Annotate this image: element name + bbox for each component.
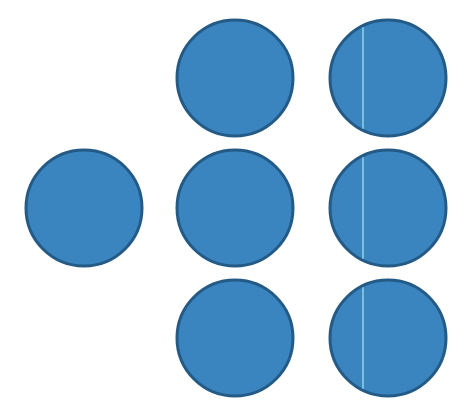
circle-col3-bottom — [330, 280, 446, 396]
circle-shape — [26, 150, 142, 266]
circle-col2-bottom — [177, 280, 293, 396]
circles-diagram — [0, 0, 470, 409]
circle-shape — [330, 20, 446, 136]
circle-col3-top — [330, 20, 446, 136]
circle-col2-middle — [177, 150, 293, 266]
circle-shape — [177, 20, 293, 136]
circle-shape — [177, 150, 293, 266]
circle-shape — [177, 280, 293, 396]
circle-shape — [330, 150, 446, 266]
circle-col3-middle — [330, 150, 446, 266]
circle-shape — [330, 280, 446, 396]
circle-col2-top — [177, 20, 293, 136]
circle-left-single — [26, 150, 142, 266]
